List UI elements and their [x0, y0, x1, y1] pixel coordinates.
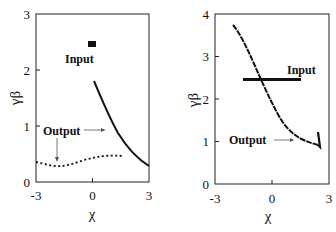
- right-xtick-3: 3: [326, 191, 333, 206]
- right-ytick-3: 3: [203, 49, 210, 64]
- left-output-lower-curve: [36, 156, 124, 167]
- figure: 0 1 2 3 -3 0 3 χ γβ Input Output 0 1 2 3…: [0, 0, 336, 232]
- left-ytick-2: 2: [24, 63, 31, 78]
- left-chart: 0 1 2 3 -3 0 3 χ γβ Input Output: [7, 7, 152, 222]
- right-ytick-1: 1: [203, 134, 210, 149]
- left-xtick-3: 3: [146, 188, 153, 203]
- left-y-axis-label: γβ: [7, 91, 23, 106]
- right-xtick-0: 0: [269, 191, 276, 206]
- left-ytick-1: 1: [24, 119, 31, 134]
- left-x-axis-label: χ: [88, 206, 96, 222]
- left-input-label: Input: [65, 52, 94, 66]
- left-output-label: Output: [43, 124, 80, 138]
- left-xtick-0: 0: [89, 188, 96, 203]
- right-output-tail: [318, 132, 320, 147]
- right-ytick-4: 4: [203, 7, 210, 22]
- left-plot-frame: [36, 14, 149, 182]
- right-output-label: Output: [229, 133, 266, 147]
- right-plot-frame: [215, 14, 329, 184]
- left-output-upper-curve: [94, 81, 149, 166]
- right-output-curve: [233, 25, 318, 145]
- right-chart: 0 1 2 3 4 -3 0 3 χ γβ Input Output: [185, 7, 332, 224]
- left-xtick-neg3: -3: [31, 188, 42, 203]
- left-ytick-0: 0: [24, 175, 31, 190]
- right-ytick-0: 0: [203, 177, 210, 192]
- right-input-label: Input: [287, 63, 316, 77]
- left-ytick-3: 3: [24, 7, 31, 22]
- right-xtick-neg3: -3: [210, 191, 221, 206]
- right-ytick-2: 2: [203, 92, 210, 107]
- left-input-points: [88, 41, 96, 47]
- arrow-head-icon: [55, 157, 59, 162]
- arrow-head-icon: [290, 138, 294, 142]
- right-x-axis-label: χ: [264, 208, 272, 224]
- arrow-head-icon: [101, 128, 105, 132]
- right-y-axis-label: γβ: [185, 93, 201, 108]
- right-input-points: [243, 78, 301, 81]
